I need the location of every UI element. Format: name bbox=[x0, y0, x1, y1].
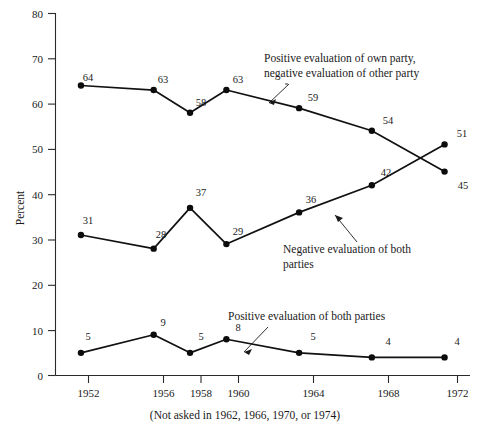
y-tick-label-80: 80 bbox=[32, 8, 44, 20]
y-tick-label-60: 60 bbox=[32, 98, 44, 110]
data-point-marker bbox=[296, 350, 302, 356]
value-label-s1-1958: 37 bbox=[196, 187, 207, 198]
x-axis bbox=[56, 376, 471, 384]
y-tick-label-40: 40 bbox=[32, 189, 44, 201]
series-negative-both bbox=[78, 141, 448, 252]
value-label-s2-1968: 4 bbox=[385, 336, 391, 347]
series-own-party-line bbox=[81, 86, 445, 172]
annotation-own-party-line1: Positive evaluation of own party, bbox=[264, 52, 416, 65]
value-label-s2-1960: 8 bbox=[235, 322, 240, 333]
data-point-marker bbox=[78, 82, 84, 88]
data-point-marker bbox=[369, 128, 375, 134]
x-tick-label-1960: 1960 bbox=[228, 387, 251, 399]
annotation-positive-both-arrowhead bbox=[244, 349, 252, 355]
annotation-own-party-line2: negative evaluation of other party bbox=[264, 67, 419, 80]
y-tick-label-0: 0 bbox=[38, 370, 44, 382]
line-chart-canvas: 80 70 60 50 40 30 20 10 0 Percent 1952 1… bbox=[0, 0, 480, 426]
series-own-party-markers bbox=[78, 82, 448, 174]
annotation-own-party-leader bbox=[269, 84, 289, 103]
data-point-marker bbox=[441, 354, 447, 360]
data-point-marker bbox=[223, 336, 229, 342]
value-label-s0-1972: 45 bbox=[458, 180, 469, 191]
value-label-s1-1956: 28 bbox=[156, 229, 167, 240]
data-point-marker bbox=[441, 168, 447, 174]
data-point-marker bbox=[187, 205, 193, 211]
x-tick-label-1958: 1958 bbox=[190, 387, 213, 399]
x-tick-label-1968: 1968 bbox=[378, 387, 401, 399]
value-label-s0-1964: 59 bbox=[308, 92, 319, 103]
value-label-s1-1952: 31 bbox=[83, 215, 94, 226]
chart-figure: 80 70 60 50 40 30 20 10 0 Percent 1952 1… bbox=[0, 0, 480, 426]
data-point-marker bbox=[223, 87, 229, 93]
value-label-s2-1958: 5 bbox=[198, 331, 203, 342]
annotation-negative-both-line1: Negative evaluation of both bbox=[283, 243, 411, 256]
data-point-marker bbox=[78, 232, 84, 238]
data-point-marker bbox=[187, 350, 193, 356]
x-tick-labels: 1952 1956 1958 1960 1964 1968 1972 bbox=[78, 387, 469, 399]
annotation-positive-both-leader bbox=[244, 327, 268, 352]
data-point-marker bbox=[150, 332, 156, 338]
y-tick-labels: 80 70 60 50 40 30 20 10 0 bbox=[32, 8, 44, 382]
data-point-marker bbox=[78, 350, 84, 356]
data-point-marker bbox=[296, 105, 302, 111]
annotation-negative-both-arrowhead bbox=[335, 215, 343, 222]
value-label-s1-1968: 42 bbox=[381, 167, 392, 178]
data-point-marker bbox=[369, 354, 375, 360]
y-tick-label-50: 50 bbox=[32, 143, 44, 155]
value-label-s1-1960: 29 bbox=[233, 226, 244, 237]
value-label-s0-1956: 63 bbox=[158, 74, 169, 85]
x-tick-label-1964: 1964 bbox=[303, 387, 326, 399]
y-tick-label-70: 70 bbox=[32, 53, 44, 65]
value-label-s1-1964: 36 bbox=[306, 194, 317, 205]
value-label-s0-1952: 64 bbox=[83, 72, 94, 83]
data-point-marker bbox=[150, 245, 156, 251]
series-own-party bbox=[78, 82, 448, 174]
y-tick-label-30: 30 bbox=[32, 234, 44, 246]
chart-footnote: (Not asked in 1962, 1966, 1970, or 1974) bbox=[150, 409, 341, 422]
x-tick-label-1952: 1952 bbox=[78, 387, 100, 399]
y-tick-label-10: 10 bbox=[32, 325, 44, 337]
x-tick-label-1972: 1972 bbox=[447, 387, 469, 399]
value-label-s0-1968: 54 bbox=[383, 115, 394, 126]
series-negative-both-markers bbox=[78, 141, 448, 252]
series-negative-both-line bbox=[81, 144, 445, 248]
value-label-s0-1960: 63 bbox=[233, 74, 244, 85]
y-axis-title: Percent bbox=[14, 190, 26, 225]
data-point-marker bbox=[223, 241, 229, 247]
annotation-positive-both-line1: Positive evaluation of both parties bbox=[228, 310, 386, 323]
value-label-s2-1956: 9 bbox=[160, 317, 165, 328]
value-label-s1-1972: 51 bbox=[457, 128, 468, 139]
annotation-negative-both-line2: parties bbox=[283, 258, 314, 271]
data-point-marker bbox=[441, 141, 447, 147]
annotation-own-party: Positive evaluation of own party, negati… bbox=[264, 52, 419, 105]
y-tick-label-20: 20 bbox=[32, 279, 44, 291]
value-label-s2-1952: 5 bbox=[85, 331, 90, 342]
value-label-s0-1958: 58 bbox=[196, 97, 207, 108]
value-label-s2-1972: 4 bbox=[454, 336, 460, 347]
data-point-marker bbox=[187, 109, 193, 115]
series-positive-both bbox=[78, 332, 448, 361]
x-tick-label-1956: 1956 bbox=[153, 387, 176, 399]
annotation-negative-both: Negative evaluation of both parties bbox=[283, 215, 411, 271]
y-axis bbox=[48, 13, 56, 376]
data-point-marker bbox=[369, 182, 375, 188]
value-label-s2-1964: 5 bbox=[310, 331, 315, 342]
data-point-marker bbox=[150, 87, 156, 93]
annotation-positive-both: Positive evaluation of both parties bbox=[228, 310, 386, 355]
data-point-marker bbox=[296, 209, 302, 215]
